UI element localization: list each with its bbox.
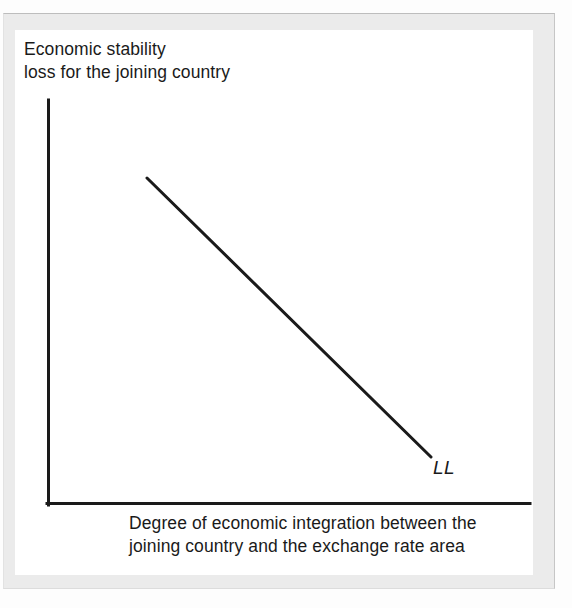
figure-plot-area (15, 30, 533, 575)
figure-page: Economic stability loss for the joining … (0, 0, 572, 608)
x-axis-label: Degree of economic integration between t… (129, 512, 529, 558)
y-axis-label: Economic stability loss for the joining … (24, 38, 354, 84)
ll-curve-label: LL (433, 457, 455, 479)
